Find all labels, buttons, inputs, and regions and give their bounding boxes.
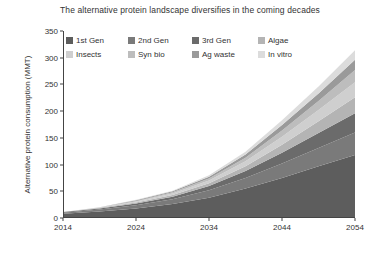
legend-item-ag-waste[interactable]: Ag waste: [192, 50, 258, 59]
x-tick-label: 2044: [273, 223, 291, 232]
y-tick-mark: [60, 137, 63, 138]
y-tick-mark: [60, 164, 63, 165]
y-tick-mark: [60, 111, 63, 112]
x-tick-label: 2014: [54, 223, 72, 232]
legend-swatch-icon: [128, 37, 135, 44]
legend-item-3rd-gen[interactable]: 3rd Gen: [192, 36, 258, 45]
legend-item-label: 1st Gen: [76, 36, 104, 45]
x-tick-mark: [63, 218, 64, 221]
y-tick-mark: [60, 31, 63, 32]
chart-root: The alternative protein landscape divers…: [0, 0, 380, 253]
x-tick-label: 2024: [127, 223, 145, 232]
legend-item-label: Algae: [268, 36, 288, 45]
legend-swatch-icon: [258, 37, 265, 44]
legend-swatch-icon: [66, 37, 73, 44]
x-tick-label: 2054: [346, 223, 364, 232]
chart-legend: 1st Gen2nd Gen3rd GenAlgae InsectsSyn bi…: [66, 33, 316, 61]
legend-item-label: Ag waste: [202, 50, 235, 59]
legend-item-label: Syn bio: [138, 50, 165, 59]
legend-item-in-vitro[interactable]: In vitro: [258, 50, 316, 59]
legend-swatch-icon: [128, 51, 135, 58]
y-tick-mark: [60, 191, 63, 192]
x-tick-mark: [282, 218, 283, 221]
y-axis-label: Alternative protein consumption (MMT): [23, 30, 32, 220]
legend-item-2nd-gen[interactable]: 2nd Gen: [128, 36, 192, 45]
legend-item-syn-bio[interactable]: Syn bio: [128, 50, 192, 59]
legend-item-1st-gen[interactable]: 1st Gen: [66, 36, 128, 45]
legend-item-insects[interactable]: Insects: [66, 50, 128, 59]
legend-row: InsectsSyn bioAg wasteIn vitro: [66, 47, 316, 61]
legend-swatch-icon: [66, 51, 73, 58]
legend-item-algae[interactable]: Algae: [258, 36, 316, 45]
chart-title: The alternative protein landscape divers…: [0, 5, 380, 15]
legend-item-label: In vitro: [268, 50, 292, 59]
legend-item-label: 3rd Gen: [202, 36, 231, 45]
legend-swatch-icon: [192, 37, 199, 44]
x-tick-label: 2034: [200, 223, 218, 232]
legend-item-label: Insects: [76, 50, 101, 59]
legend-swatch-icon: [258, 51, 265, 58]
legend-row: 1st Gen2nd Gen3rd GenAlgae: [66, 33, 316, 47]
x-tick-mark: [209, 218, 210, 221]
legend-item-label: 2nd Gen: [138, 36, 169, 45]
legend-swatch-icon: [192, 51, 199, 58]
x-tick-mark: [136, 218, 137, 221]
x-tick-mark: [355, 218, 356, 221]
y-tick-mark: [60, 57, 63, 58]
y-tick-mark: [60, 84, 63, 85]
